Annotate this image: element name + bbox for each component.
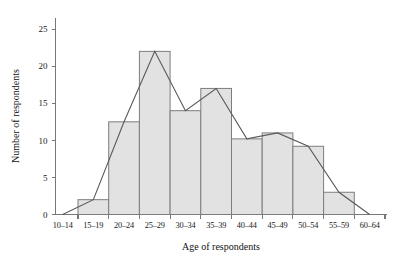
x-axis-tick-label: 15–19 (83, 221, 103, 230)
x-axis-tick-label: 50–54 (298, 221, 319, 230)
x-axis-title: Age of respondents (182, 241, 260, 252)
y-axis-tick-label: 15 (39, 98, 49, 108)
histogram-bar (232, 139, 263, 215)
y-axis-tick-label: 10 (39, 136, 49, 146)
x-axis-tick-label: 55–59 (329, 221, 349, 230)
histogram-bar (293, 146, 324, 214)
y-axis-tick-label: 0 (43, 210, 48, 220)
x-axis-tick-label: 60–64 (360, 221, 381, 230)
histogram-bar (78, 200, 109, 215)
y-axis-tick-label: 5 (43, 173, 48, 183)
histogram-chart: 0510152025 10–1415–1920–2425–2930–3435–3… (0, 0, 403, 265)
histogram-bar (262, 133, 293, 215)
histogram-bar (324, 192, 355, 214)
x-axis-tick-marks (78, 215, 385, 219)
x-axis-tick-label: 40–44 (237, 221, 258, 230)
x-axis-tick-label: 30–34 (175, 221, 196, 230)
x-axis-tick-label: 25–29 (145, 221, 165, 230)
x-axis-group: 10–1415–1920–2425–2930–3435–3940–4445–49… (53, 215, 387, 231)
x-axis-tick-label: 10–14 (53, 221, 74, 230)
x-axis-tick-labels: 10–1415–1920–2425–2930–3435–3940–4445–49… (53, 221, 381, 230)
x-axis-tick-label: 45–49 (268, 221, 288, 230)
y-axis-tick-label: 20 (39, 61, 49, 71)
y-axis-title: Number of respondents (10, 69, 21, 163)
y-axis-tick-marks (52, 29, 56, 214)
chart-container: 0510152025 10–1415–1920–2425–2930–3435–3… (0, 0, 403, 265)
histogram-bar (109, 122, 140, 215)
x-axis-tick-label: 20–24 (114, 221, 135, 230)
y-axis-tick-label: 25 (39, 24, 49, 34)
x-axis-tick-label: 35–39 (206, 221, 226, 230)
histogram-bar (201, 88, 232, 214)
y-axis-tick-labels: 0510152025 (39, 24, 49, 219)
y-axis-group: 0510152025 (39, 18, 56, 220)
histogram-bar (170, 111, 201, 215)
